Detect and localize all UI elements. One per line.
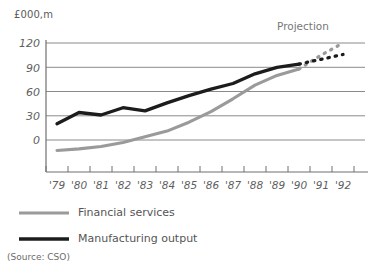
y-tick-label-30: 30 [26,110,40,123]
legend-item-financial-services: Financial services [0,206,377,232]
x-tick-label-80: '80 [71,179,88,191]
series-line-manufacturing-output [57,64,299,124]
chart-plot-area: 120 90 60 30 0 '79 '80 '81 '82 '83 '84 '… [0,0,377,200]
x-tick-label-88: '88 [247,179,264,191]
x-tick-label-79: '79 [49,179,66,191]
x-tick-label-87: '87 [225,179,242,191]
legend-label-manufacturing-output: Manufacturing output [78,232,197,245]
y-tick-label-0: 0 [33,134,40,147]
x-tick-label-84: '84 [159,179,175,191]
x-tick-label-82: '82 [115,179,132,191]
x-tick-label-92: '92 [335,179,352,191]
x-tick-label-89: '89 [269,179,286,191]
x-tick-label-86: '86 [203,179,220,191]
x-tick-label-85: '85 [181,179,198,191]
x-axis-ticks [46,166,354,172]
legend-swatch-manufacturing-output [18,232,70,246]
y-tick-label-90: 90 [26,62,40,75]
source-note: (Source: CSO) [7,252,70,262]
x-tick-label-83: '83 [137,179,153,191]
legend-swatch-financial-services [18,206,70,220]
chart-container: £000,m Projection [0,0,377,273]
chart-legend: Financial services Manufacturing output [0,206,377,258]
y-tick-label-120: 120 [19,37,40,50]
x-tick-label-90: '90 [291,179,308,191]
y-tick-label-60: 60 [26,86,40,99]
legend-label-financial-services: Financial services [78,206,175,219]
x-tick-label-91: '91 [313,179,329,191]
series-line-financial-services [57,69,299,151]
series-projection-manufacturing-output [299,55,343,65]
x-tick-label-81: '81 [93,179,109,191]
